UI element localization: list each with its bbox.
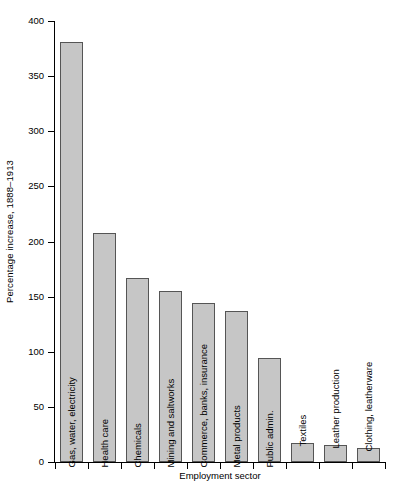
y-tick-mark [48,76,54,77]
y-tick-mark [48,186,54,187]
plot-area: Gas, water, electricityHealth careChemic… [55,21,385,462]
y-tick-mark [48,297,54,298]
bar-category-label: Metal products [231,405,241,467]
x-tick-mark [319,463,320,469]
x-tick-mark [88,463,89,469]
bar-category-label: Public admin. [264,410,274,467]
x-tick-mark [121,463,122,469]
bar-category-label: Health care [99,419,109,468]
y-tick-label: 50 [0,402,44,412]
bar-category-label: Gas, water, electricity [66,377,76,467]
bar-category-label: Commerce, banks, insurance [198,344,208,468]
y-tick-label: 200 [0,237,44,247]
y-tick-mark [48,352,54,353]
bar-category-label: Leather production [330,370,340,449]
y-tick-mark [48,131,54,132]
y-tick-label: 100 [0,347,44,357]
x-tick-mark [253,463,254,469]
x-tick-mark [286,463,287,469]
y-tick-mark [48,407,54,408]
y-tick-label: 350 [0,71,44,81]
y-tick-label: 0 [0,457,44,467]
y-tick-label: 400 [0,16,44,26]
x-tick-mark [154,463,155,469]
bar-category-label: Textiles [297,415,307,447]
x-axis-title: Employment sector [55,470,385,481]
y-tick-label: 300 [0,127,44,137]
y-tick-mark [48,21,54,22]
x-tick-mark [352,463,353,469]
y-tick-label: 150 [0,292,44,302]
bar-category-label: Chemicals [132,423,142,467]
y-tick-mark [48,242,54,243]
y-axis-title: Percentage increase, 1888–1913 [0,0,18,462]
y-tick-label: 250 [0,182,44,192]
bar-category-label: Mining and saltworks [165,379,175,468]
bar-chart: Percentage increase, 1888–1913 050100150… [0,0,397,489]
bar-category-label: Clothing, leatherware [363,361,373,451]
x-tick-mark [220,463,221,469]
x-tick-mark [187,463,188,469]
x-tick-mark [385,463,386,469]
y-tick-mark [48,462,54,463]
x-tick-mark [55,463,56,469]
